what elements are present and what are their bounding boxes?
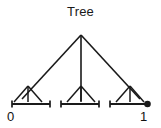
subtree-left-fan [14, 86, 42, 102]
right-fan-branch-c [130, 86, 144, 102]
endpoint-dot-one [144, 101, 151, 108]
tree-figure: Tree [0, 0, 161, 128]
middle-fan-branch-a [67, 86, 81, 102]
right-fan-branch-a [116, 86, 130, 102]
subtree-right-fan [116, 86, 144, 102]
left-fan-branch-c [28, 86, 42, 102]
axis-label-one: 1 [140, 110, 147, 124]
subtree-middle-fan [67, 86, 95, 102]
axis-label-zero: 0 [7, 110, 14, 124]
tree-diagram-canvas [0, 0, 161, 128]
middle-fan-branch-c [81, 86, 95, 102]
root-branch-right [81, 35, 140, 99]
